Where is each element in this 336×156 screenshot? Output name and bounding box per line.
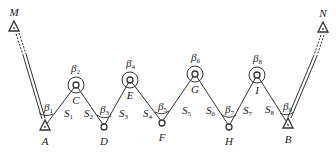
angle-label-beta7: β7	[224, 103, 234, 117]
label-F: F	[158, 131, 166, 143]
traverse-point-H-icon	[226, 124, 232, 130]
control-point-B-icon	[283, 118, 293, 128]
traverse-point-F-icon	[159, 120, 165, 126]
angle-label-beta3: β3	[99, 103, 109, 117]
side-label-S3: S3	[119, 107, 129, 121]
known-line-NB	[288, 35, 324, 118]
traverse-point-E-icon	[127, 77, 133, 83]
label-M: M	[8, 6, 19, 18]
side-label-S5: S5	[182, 104, 192, 118]
traverse-line	[45, 74, 288, 126]
side-label-S1: S1	[64, 107, 74, 121]
label-H: H	[224, 135, 234, 147]
traverse-diagram: M A B N C D E F G H I β1 β2 β3 β4 β5 β6 …	[0, 0, 336, 156]
traverse-point-C-icon	[73, 82, 79, 88]
label-G: G	[191, 83, 199, 95]
label-D: D	[99, 135, 108, 147]
angle-label-beta6: β6	[190, 51, 200, 65]
label-N: N	[318, 7, 327, 19]
traverse-point-D-icon	[101, 124, 107, 130]
label-E: E	[126, 89, 134, 101]
control-point-N-icon	[318, 22, 328, 32]
angle-label-beta5: β5	[157, 100, 167, 114]
side-label-S7: S7	[243, 104, 253, 118]
angle-label-beta9: β9	[282, 100, 292, 114]
traverse-point-I-icon	[254, 72, 260, 78]
label-B: B	[285, 133, 292, 145]
known-line-MA	[16, 33, 45, 119]
control-point-M-icon	[9, 21, 19, 31]
side-label-S4: S4	[143, 107, 153, 121]
angle-label-beta2: β2	[70, 62, 80, 76]
angle-label-beta1: β1	[43, 101, 53, 115]
angle-label-beta4: β4	[125, 57, 135, 71]
label-C: C	[72, 94, 80, 106]
label-A: A	[41, 135, 49, 147]
side-label-S8: S8	[265, 103, 275, 117]
angle-label-beta8: β8	[252, 52, 262, 66]
label-I: I	[254, 84, 260, 96]
traverse-point-G-icon	[192, 71, 198, 77]
side-label-S6: S6	[206, 104, 216, 118]
